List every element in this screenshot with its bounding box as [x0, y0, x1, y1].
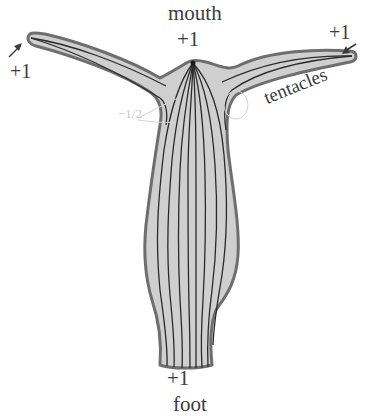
- right-tentacle-tip-charge-label: +1: [329, 22, 350, 42]
- foot-charge-label: +1: [167, 368, 189, 389]
- hydra-defect-diagram: mouth +1 +1 +1 tentacles −1/2 +1 foot: [0, 0, 370, 416]
- mouth-label: mouth: [168, 3, 222, 24]
- left-junction-charge-label: −1/2: [118, 107, 142, 120]
- left-tentacle-tip-charge-label: +1: [10, 61, 31, 81]
- mouth-defect-point: [191, 61, 196, 66]
- foot-label: foot: [173, 394, 207, 415]
- hydra-body-illustration: [0, 0, 370, 416]
- mouth-charge-label: +1: [177, 29, 199, 50]
- left-tip-arrow: [9, 43, 22, 57]
